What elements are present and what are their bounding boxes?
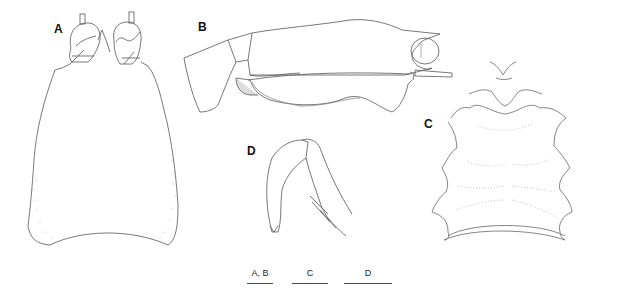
panel-label-c: C [424, 117, 433, 131]
scale-label-d: D [344, 268, 392, 278]
scale-line-c [292, 283, 328, 284]
scale-line-d [344, 283, 392, 284]
panel-c-stipple [456, 124, 558, 218]
panel-a-drawing [28, 12, 178, 245]
scale-label-c: C [292, 268, 328, 278]
panel-label-b: B [198, 20, 207, 34]
panel-d-drawing [267, 139, 352, 236]
panel-a-stipple [32, 159, 175, 238]
panel-label-a: A [54, 22, 63, 36]
figure-drawings [0, 0, 617, 306]
scale-label-ab: A, B [245, 268, 275, 278]
panel-c-drawing [432, 62, 572, 240]
panel-label-d: D [247, 144, 256, 158]
scientific-figure-plate: A B C D A, B C D [0, 0, 617, 306]
scale-line-ab [247, 283, 273, 284]
panel-b-drawing [184, 20, 452, 112]
